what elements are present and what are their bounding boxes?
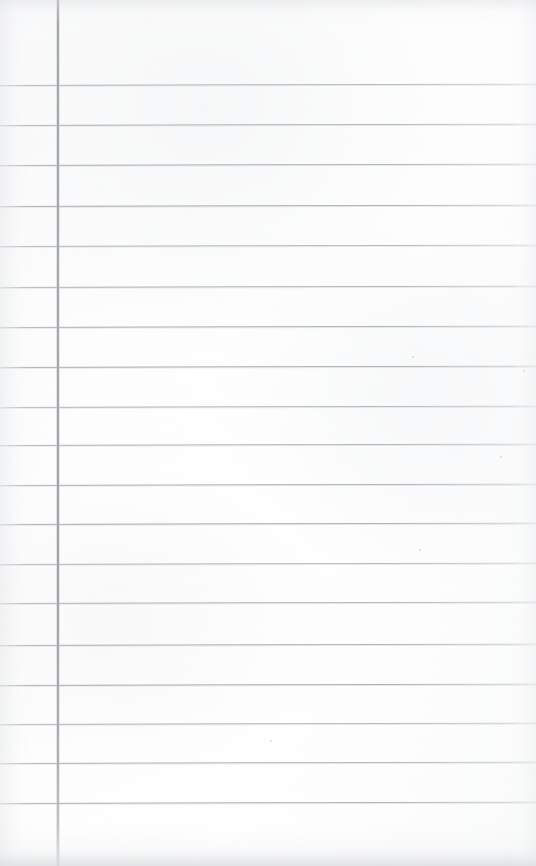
rule-line-12 bbox=[0, 523, 536, 525]
rule-line-11 bbox=[0, 484, 536, 486]
rule-line-7 bbox=[0, 326, 536, 328]
rule-line-9 bbox=[0, 406, 536, 408]
vertical-margin-rule-line bbox=[57, 0, 59, 866]
rule-line-4 bbox=[0, 205, 536, 207]
rule-line-1 bbox=[0, 84, 536, 86]
left-edge-shadow bbox=[0, 0, 34, 866]
notebook-page bbox=[0, 0, 536, 866]
rule-line-18 bbox=[0, 762, 536, 764]
rule-line-17 bbox=[0, 723, 536, 725]
right-edge-shadow bbox=[510, 0, 536, 866]
rule-line-14 bbox=[0, 602, 536, 604]
rule-line-19 bbox=[0, 802, 536, 804]
rule-line-2 bbox=[0, 124, 536, 126]
bottom-smudge-band bbox=[0, 848, 536, 866]
rule-line-10 bbox=[0, 444, 536, 446]
rule-line-5 bbox=[0, 245, 536, 247]
rule-line-3 bbox=[0, 164, 536, 166]
rule-line-16 bbox=[0, 684, 536, 686]
scan-speck-5 bbox=[270, 740, 272, 742]
rule-line-8 bbox=[0, 366, 536, 368]
scan-speck-4 bbox=[419, 549, 421, 551]
scan-speck-1 bbox=[412, 356, 414, 358]
scan-speck-3 bbox=[500, 456, 502, 458]
rule-line-6 bbox=[0, 286, 536, 288]
rule-line-15 bbox=[0, 644, 536, 646]
top-edge-shadow bbox=[0, 0, 536, 26]
writing-area bbox=[57, 0, 536, 866]
rule-line-13 bbox=[0, 563, 536, 565]
